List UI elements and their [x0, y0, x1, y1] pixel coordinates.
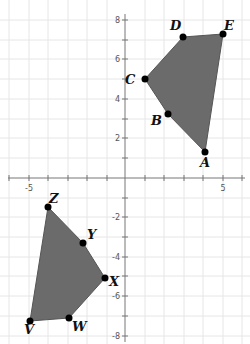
label-z: Z: [48, 191, 59, 206]
label-x: X: [108, 274, 120, 289]
label-y: Y: [87, 227, 98, 242]
y-tick-label: -4: [112, 253, 120, 262]
y-tick-label: 8: [115, 16, 120, 25]
point-y: [80, 240, 87, 247]
label-v: V: [24, 322, 36, 337]
y-tick-label: 2: [115, 134, 120, 143]
y-tick-label: -8: [112, 332, 120, 341]
label-d: D: [169, 18, 182, 33]
point-b: [165, 111, 172, 118]
y-tick-label: 6: [115, 55, 120, 64]
label-w: W: [72, 319, 88, 334]
point-x: [102, 275, 109, 282]
coordinate-plane: -5 5 8 6 4 2 -2 -4 -6 -8 A B C D E Z Y X…: [0, 0, 250, 344]
y-tick-label: 4: [115, 95, 120, 104]
y-tick-label: -2: [112, 213, 120, 222]
label-b: B: [150, 113, 162, 128]
x-tick-label: -5: [25, 184, 33, 193]
x-tick-label: 5: [220, 184, 225, 193]
label-a: A: [198, 155, 210, 170]
y-tick-label: -6: [112, 292, 120, 301]
point-d: [180, 34, 187, 41]
label-e: E: [223, 18, 235, 33]
label-c: C: [125, 72, 136, 87]
point-c: [142, 76, 149, 83]
